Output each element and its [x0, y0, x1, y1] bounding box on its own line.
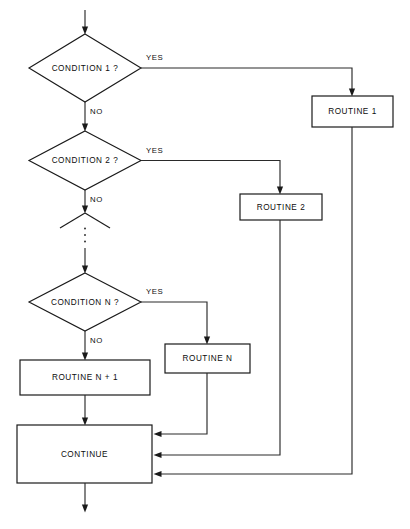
edge-yes-1 — [141, 68, 355, 97]
entry-arrow — [82, 10, 88, 35]
decision-node-condition-1[interactable]: CONDITION 1 ? — [29, 34, 141, 102]
process-node-routine-n-plus-1[interactable]: ROUTINE N + 1 — [20, 360, 150, 395]
process-node-routine-n[interactable]: ROUTINE N — [165, 344, 250, 373]
routine-n-plus-1-label: ROUTINE N + 1 — [52, 373, 118, 382]
routine-n-label: ROUTINE N — [183, 354, 233, 363]
edge-routine-n-to-continue — [154, 373, 208, 437]
flowchart-svg: CONDITION 1 ? YES NO ROUTINE 1 CONDITION… — [0, 0, 410, 529]
edge-label-no-2: NO — [90, 195, 103, 204]
decision-1-label: CONDITION 1 ? — [52, 64, 119, 73]
decision-n-label: CONDITION N ? — [51, 298, 119, 307]
decision-2-label: CONDITION 2 ? — [52, 156, 119, 165]
edge-routine-n-plus-1-to-continue — [82, 395, 88, 426]
process-node-routine-1[interactable]: ROUTINE 1 — [312, 96, 393, 127]
routine-1-label: ROUTINE 1 — [328, 107, 377, 116]
continue-label: CONTINUE — [61, 450, 108, 459]
exit-arrow — [82, 483, 88, 513]
edge-yes-n — [141, 302, 210, 345]
edge-label-no-n: NO — [90, 336, 103, 345]
process-node-routine-2[interactable]: ROUTINE 2 — [240, 194, 322, 220]
process-node-continue[interactable]: CONTINUE — [17, 425, 152, 483]
edge-label-yes-n: YES — [146, 287, 163, 296]
routine-2-label: ROUTINE 2 — [257, 203, 306, 212]
edge-label-yes-2: YES — [146, 146, 163, 155]
edge-routine-2-to-continue — [154, 220, 281, 458]
decision-node-condition-n[interactable]: CONDITION N ? — [29, 273, 141, 331]
decision-node-partial — [60, 213, 110, 228]
edge-no-n — [82, 331, 88, 361]
edge-ellipsis-to-condition-n — [82, 248, 88, 274]
decision-node-condition-2[interactable]: CONDITION 2 ? — [29, 131, 141, 190]
flowchart-canvas: CONDITION 1 ? YES NO ROUTINE 1 CONDITION… — [0, 0, 410, 529]
ellipsis-marker — [84, 228, 86, 243]
edge-yes-2 — [141, 161, 283, 195]
edge-no-1 — [82, 102, 88, 132]
edge-no-2 — [82, 190, 88, 214]
edge-label-no-1: NO — [90, 107, 103, 116]
edge-label-yes-1: YES — [146, 53, 163, 62]
